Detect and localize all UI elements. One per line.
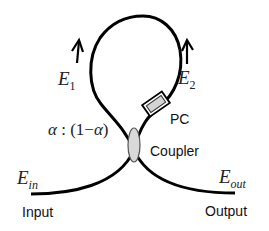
fiber-loop-diagram: E1 E2 Ein Eout α : (1−α) PC Coupler Inpu… — [0, 0, 269, 231]
ein-label: Ein — [17, 168, 38, 191]
input-fiber — [31, 150, 134, 194]
output-label: Output — [205, 204, 247, 218]
coupling-ratio-label: α : (1−α) — [48, 121, 109, 138]
coupler-label: Coupler — [150, 144, 199, 158]
polarization-controller-icon — [142, 91, 170, 116]
e2-label: E2 — [178, 68, 196, 91]
coupler-icon — [128, 128, 140, 162]
e1-arrow-icon — [72, 40, 83, 63]
input-label: Input — [22, 205, 53, 219]
e1-label: E1 — [58, 69, 76, 92]
pc-label: PC — [170, 112, 189, 126]
e2-arrow-icon — [182, 40, 193, 64]
diagram-graphics — [0, 0, 269, 231]
eout-label: Eout — [219, 167, 246, 190]
